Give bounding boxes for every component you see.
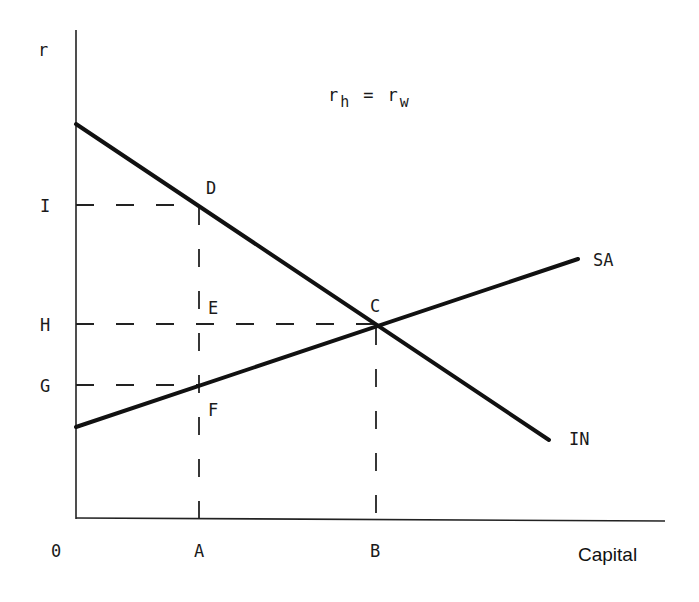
- curve-SA-label: SA: [593, 252, 613, 269]
- eq-r-h: r: [328, 85, 338, 105]
- tick-H-label: H: [40, 317, 50, 334]
- point-C-label: C: [370, 298, 380, 315]
- eq-r-w: r: [388, 85, 398, 105]
- tick-A-label: A: [194, 543, 204, 560]
- diagram-canvas: r Capital 0 A B I H G D E F C SA IN rh=r…: [0, 0, 699, 602]
- tick-I-label: I: [40, 198, 50, 215]
- eq-sub-h: h: [340, 93, 349, 111]
- curve-SA: [76, 259, 578, 427]
- origin-label: 0: [51, 543, 61, 560]
- tick-B-label: B: [370, 543, 380, 560]
- tick-G-label: G: [40, 378, 50, 395]
- x-axis: [76, 518, 665, 521]
- curve-IN: [76, 124, 549, 440]
- y-axis-label: r: [38, 42, 48, 59]
- eq-sub-w: w: [400, 93, 409, 111]
- point-E-label: E: [208, 300, 218, 317]
- x-axis-label: Capital: [578, 545, 637, 564]
- point-F-label: F: [208, 402, 218, 419]
- eq-equals: =: [363, 85, 373, 105]
- curve-IN-label: IN: [569, 431, 589, 448]
- condition-equation: rh=rw: [328, 87, 409, 105]
- point-D-label: D: [206, 180, 216, 197]
